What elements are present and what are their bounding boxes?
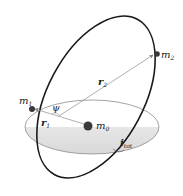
orbital-diagram: m0 m1 m2 r1 r2 ψ itot: [0, 0, 183, 196]
body-m0: [84, 122, 93, 131]
label-r2: r2: [98, 76, 107, 88]
label-m1: m1: [19, 95, 32, 107]
outer-orbit: [12, 0, 179, 196]
label-r1: r1: [41, 117, 50, 129]
label-m0: m0: [96, 120, 109, 132]
label-m2: m2: [161, 49, 174, 61]
label-psi: ψ: [52, 102, 60, 113]
body-m2: [154, 51, 160, 57]
